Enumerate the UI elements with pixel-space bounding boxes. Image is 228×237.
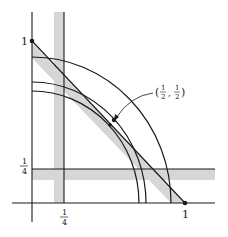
label-y-one: 1 <box>21 35 28 48</box>
svg-text:,: , <box>168 88 171 98</box>
svg-text:2: 2 <box>161 93 165 101</box>
svg-text:4: 4 <box>62 218 67 227</box>
label-point-half-half: ( 1 2 , 1 2 ) <box>155 84 185 101</box>
horizontal-band <box>32 169 215 180</box>
svg-text:1: 1 <box>22 157 27 166</box>
arc-middle <box>32 82 146 203</box>
svg-text:(: ( <box>155 86 159 99</box>
label-x-one: 1 <box>182 208 189 221</box>
diagram-canvas: 1 1 1 4 1 4 ( 1 2 , 1 2 ) <box>0 0 228 237</box>
svg-text:1: 1 <box>62 208 67 217</box>
svg-text:4: 4 <box>22 167 27 176</box>
svg-text:): ) <box>181 86 185 99</box>
label-y-quarter: 1 4 <box>20 157 28 176</box>
label-x-quarter: 1 4 <box>60 208 68 227</box>
annotation-arrow <box>116 93 153 118</box>
svg-text:1: 1 <box>175 84 179 92</box>
point-inner-arc <box>108 123 112 127</box>
svg-text:1: 1 <box>161 84 165 92</box>
point-y-one <box>30 39 35 44</box>
point-x-one <box>183 201 188 206</box>
svg-text:2: 2 <box>175 93 179 101</box>
